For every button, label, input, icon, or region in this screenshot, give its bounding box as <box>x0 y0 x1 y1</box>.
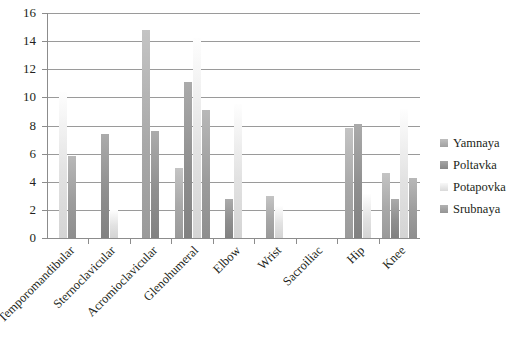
legend-item[interactable]: Potapovka <box>440 176 515 198</box>
legend-swatch-icon <box>440 161 448 169</box>
bar <box>110 210 118 238</box>
legend-label: Potapovka <box>453 181 506 194</box>
y-axis-tick-label: 10 <box>0 90 36 103</box>
bar <box>175 168 183 238</box>
bar <box>151 131 159 238</box>
x-axis-tick <box>213 239 214 244</box>
bar <box>345 128 353 238</box>
legend: YamnayaPoltavkaPotapovkaSrubnaya <box>440 132 515 220</box>
bar-group <box>101 13 118 238</box>
bar <box>202 110 210 238</box>
bar <box>266 196 274 238</box>
legend-swatch-icon <box>440 139 448 147</box>
bar <box>391 199 399 238</box>
bar-group <box>225 13 242 238</box>
y-axis-tick-label: 8 <box>0 119 36 132</box>
bar-chart: 0246810121416 TemporomandibularSternocla… <box>0 0 515 350</box>
x-axis-tick <box>379 239 380 244</box>
bar-group <box>175 13 210 238</box>
bar <box>400 109 408 238</box>
y-axis-tick-label: 12 <box>0 62 36 75</box>
bar-group <box>345 13 371 238</box>
legend-swatch-icon <box>440 205 448 213</box>
bar <box>225 199 233 238</box>
bar <box>382 173 390 238</box>
y-axis-tick-label: 2 <box>0 203 36 216</box>
x-axis-tick <box>88 239 89 244</box>
bar <box>59 92 67 238</box>
y-axis-tick-label: 14 <box>0 34 36 47</box>
x-axis-tick <box>296 239 297 244</box>
bar <box>275 206 283 238</box>
bar <box>354 124 362 238</box>
y-axis-tick-label: 0 <box>0 231 36 244</box>
bar <box>142 30 150 238</box>
legend-item[interactable]: Srubnaya <box>440 198 515 220</box>
bar <box>68 156 76 238</box>
bar <box>101 134 109 238</box>
bar-group <box>266 13 283 238</box>
y-axis-tick-label: 4 <box>0 175 36 188</box>
x-axis-tick <box>254 239 255 244</box>
plot-area <box>47 13 420 238</box>
x-axis-tick <box>171 239 172 244</box>
bar-group <box>382 13 417 238</box>
x-axis-tick <box>337 239 338 244</box>
legend-label: Srubnaya <box>453 203 500 216</box>
y-axis-tick-label: 16 <box>0 6 36 19</box>
bar <box>409 178 417 238</box>
legend-item[interactable]: Poltavka <box>440 154 515 176</box>
legend-swatch-icon <box>440 183 448 191</box>
y-axis-tick-label: 6 <box>0 147 36 160</box>
bar <box>363 194 371 238</box>
bar <box>193 38 201 238</box>
x-axis-tick <box>130 239 131 244</box>
legend-label: Yamnaya <box>453 137 500 150</box>
bar <box>234 104 242 238</box>
bar-group <box>59 13 76 238</box>
bar-group <box>142 13 159 238</box>
bar <box>184 82 192 238</box>
legend-label: Poltavka <box>453 159 497 172</box>
gridline <box>47 238 420 239</box>
legend-item[interactable]: Yamnaya <box>440 132 515 154</box>
